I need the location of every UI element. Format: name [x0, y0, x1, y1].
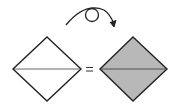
- origami-diagram: [0, 0, 176, 107]
- equals-sign: [86, 68, 93, 72]
- after-diamond: [100, 37, 167, 101]
- turn-over-arrow-icon: [66, 8, 116, 27]
- before-diamond: [13, 37, 81, 101]
